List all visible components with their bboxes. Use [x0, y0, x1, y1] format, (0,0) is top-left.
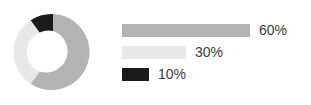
legend-item-2: 30% [122, 43, 223, 61]
legend-label-2: 30% [195, 45, 223, 59]
donut-chart-figure: 60% 30% 10% [0, 0, 311, 105]
legend-swatch-2 [122, 46, 186, 59]
legend-swatch-3 [122, 68, 149, 81]
legend-swatch-1 [122, 24, 250, 37]
donut-chart [13, 12, 93, 92]
legend-item-3: 10% [122, 65, 186, 83]
chart-legend: 60% 30% 10% [122, 18, 311, 90]
legend-item-1: 60% [122, 21, 287, 39]
donut-segment-2 [14, 20, 40, 84]
legend-label-1: 60% [259, 23, 287, 37]
legend-label-3: 10% [158, 67, 186, 81]
donut-chart-svg [13, 12, 93, 92]
